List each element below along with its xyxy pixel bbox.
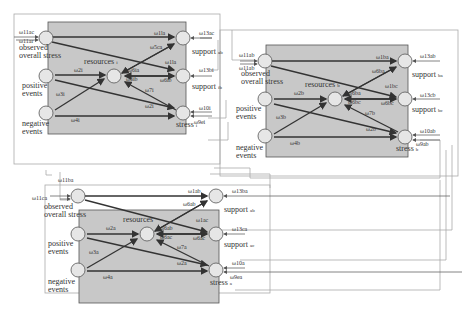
- node-c-support-2: [209, 227, 223, 241]
- node-b-resources: [328, 92, 342, 106]
- weight-a-neg-st: ω4i: [71, 117, 80, 123]
- label-a-resources: resources i: [84, 57, 118, 66]
- weight-c-st-in2: ω9ea: [230, 274, 243, 280]
- network-diagram: observed overall stress positive events …: [0, 0, 462, 319]
- weight-a-s1-in: ω13ac: [199, 30, 215, 36]
- weight-b-oos-s2: ω1bc: [385, 83, 398, 89]
- weight-a-res-a: ω6ia: [128, 67, 140, 73]
- weight-a-s2-res: ω6ib: [160, 77, 172, 83]
- weight-a-oos-s2: ω1la: [165, 59, 177, 65]
- weight-a-neg-res: ω3i: [56, 91, 65, 97]
- node-b-support-1: [398, 54, 412, 68]
- weight-b-in2: ω11ab: [239, 65, 254, 71]
- model-b: observed overall stress positive events …: [236, 45, 444, 160]
- node-a-support-1: [176, 31, 190, 45]
- label-b-neg-2: events: [236, 151, 256, 160]
- weight-b-res-a: ω6ba: [348, 90, 361, 96]
- weight-b-st-res: ω7b: [365, 110, 375, 116]
- weight-c-pos-st: ω2a: [177, 260, 187, 266]
- weight-a-oos-res: ω5ca: [150, 44, 163, 50]
- weight-a-s2-in: ω13bi: [199, 67, 214, 73]
- node-a-resources: [107, 69, 121, 83]
- label-c-support-1: support ab: [224, 205, 255, 214]
- weight-b-s2-in: ω13cb: [420, 92, 436, 98]
- weight-a-pos-res: ω2i: [74, 67, 83, 73]
- weight-b-neg-res: ω3b: [276, 114, 286, 120]
- weight-c-in2: ω11ba: [58, 177, 74, 183]
- node-b-stress: [398, 130, 412, 144]
- weight-b-st-in1: ω10ab: [420, 128, 436, 134]
- node-b-support-2: [398, 92, 412, 106]
- weight-b-pos-st: ω2b: [366, 126, 376, 132]
- weight-c-oos-s2: ω1ac: [196, 217, 209, 223]
- node-c-negative-events: [71, 263, 85, 277]
- node-b-observed-overall-stress: [258, 54, 272, 68]
- label-c-resources: resources: [123, 215, 153, 224]
- weight-b-neg-st: ω4b: [290, 140, 300, 146]
- weight-a-in1: ω11ac: [19, 29, 34, 35]
- label-b-resources: resources b: [305, 80, 340, 89]
- weight-b-s2-res: ω6bc: [381, 100, 394, 106]
- weight-c-st-in1: ω10a: [232, 260, 245, 266]
- node-a-stress: [176, 106, 190, 120]
- weight-c-st-res: ω7a: [177, 244, 187, 250]
- weight-b-pos-res: ω2b: [294, 90, 304, 96]
- weight-b-in1: ω11ab: [239, 52, 254, 58]
- label-a-neg-2: events: [22, 127, 42, 136]
- weight-a-oos-s1: ω1la: [154, 30, 166, 36]
- node-a-negative-events: [39, 106, 53, 120]
- weight-b-oos-res: ω6ba: [372, 68, 385, 74]
- label-c-neg-2: events: [48, 285, 68, 294]
- weight-b-st-in2: ω9ab: [416, 141, 429, 147]
- weight-a-pos-st: ω2i: [145, 103, 154, 109]
- weight-c-pos-res: ω2a: [106, 225, 116, 231]
- node-a-support-2: [176, 69, 190, 83]
- weight-c-res-a: ω6ab: [160, 225, 173, 231]
- weight-c-s2-in: ω13ca: [232, 226, 248, 232]
- node-c-observed-overall-stress: [71, 189, 85, 203]
- label-a-oos-2: overall stress: [19, 51, 61, 60]
- label-c-support-2: support ac: [224, 240, 255, 249]
- weight-b-s1-in: ω13ab: [420, 53, 436, 59]
- weight-c-s1-in: ω13ba: [232, 188, 248, 194]
- label-b-support-2: support bc: [412, 105, 444, 114]
- node-c-support-1: [209, 189, 223, 203]
- weight-a-st-res: ω7i: [145, 87, 154, 93]
- label-a-pos-2: events: [22, 89, 42, 98]
- weight-c-neg-st: ω4a: [103, 274, 113, 280]
- label-b-pos-2: events: [236, 112, 256, 121]
- node-c-resources: [140, 227, 154, 241]
- weight-c-res-b: ω6ac: [160, 234, 173, 240]
- weight-b-oos-s1: ω1ba: [376, 54, 389, 60]
- label-b-oos-2: overall stress: [241, 77, 283, 86]
- label-b-support-1: support ba: [412, 70, 444, 79]
- label-a-support-1: support ab: [192, 47, 223, 56]
- weight-c-oos-s1: ω1ab: [188, 188, 201, 194]
- model-a: observed overall stress positive events …: [19, 22, 223, 136]
- label-c-oos-2: overall stress: [44, 210, 86, 219]
- node-b-negative-events: [258, 129, 272, 143]
- diagram-svg: observed overall stress positive events …: [0, 0, 462, 319]
- weight-c-neg-res: ω3a: [89, 249, 99, 255]
- weight-c-s2-res: ω6ac: [193, 235, 206, 241]
- weight-a-in2: ω11ar: [19, 38, 33, 44]
- node-c-stress: [209, 263, 223, 277]
- weight-c-oos-res: ω6ab: [183, 201, 196, 207]
- weight-a-res-b: ω6ib: [126, 76, 138, 82]
- weight-a-st-in2: ω9ei: [194, 119, 206, 125]
- weight-b-res-b: ω6bc: [348, 99, 361, 105]
- weight-a-st-in1: ω10i: [199, 105, 211, 111]
- label-a-support-2: support ib: [192, 82, 222, 91]
- weight-c-in1: ω11ca: [32, 195, 47, 201]
- label-c-pos-2: events: [48, 247, 68, 256]
